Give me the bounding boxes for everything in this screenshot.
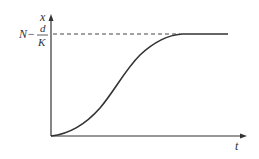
x-axis-label: t — [235, 139, 239, 153]
logistic-curve — [51, 34, 228, 136]
logistic-diagram: x N− d K t — [0, 0, 259, 159]
y-axis-arrow-icon — [49, 14, 54, 21]
x-axis-arrow-icon — [240, 134, 247, 139]
asymptote-denominator: K — [37, 36, 46, 48]
asymptote-numerator: d — [40, 22, 46, 34]
asymptote-prefix: N− — [18, 27, 35, 41]
